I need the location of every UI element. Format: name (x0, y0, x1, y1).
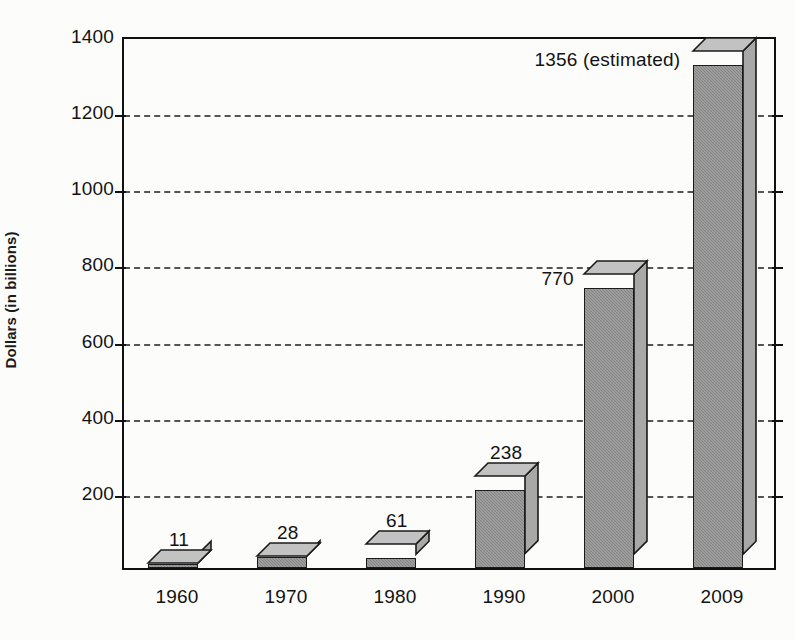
x-axis-tick-label: 1990 (482, 586, 525, 608)
x-axis-tick-label: 1980 (373, 586, 416, 608)
x-axis-tick-label: 2000 (591, 586, 634, 608)
x-axis-tick-label: 1970 (264, 586, 307, 608)
x-axis-tick-label: 1960 (155, 586, 198, 608)
bar-chart: Dollars (in billions) 200400600800100012… (0, 0, 795, 640)
x-axis-tick-label: 2009 (700, 586, 743, 608)
x-axis-tick-labels: 196019701980199020002009 (0, 0, 795, 640)
